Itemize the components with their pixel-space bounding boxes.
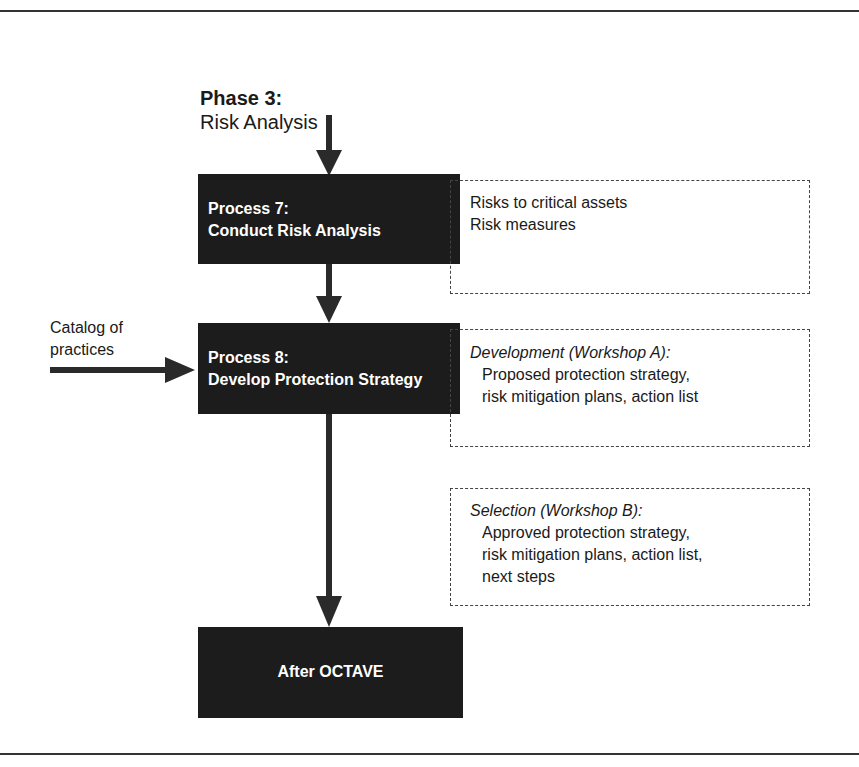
process-7-outputs: Risks to critical assets Risk measures: [470, 192, 627, 236]
process-8-number: Process 8:: [208, 347, 289, 369]
after-octave-label: After OCTAVE: [198, 661, 463, 683]
process-8-title: Develop Protection Strategy: [208, 369, 422, 391]
after-octave-box: After OCTAVE: [198, 627, 463, 718]
workshop-a-heading: Development (Workshop A):: [470, 342, 698, 364]
workshop-b-heading: Selection (Workshop B):: [470, 500, 703, 522]
output-risks: Risks to critical assets: [470, 192, 627, 214]
output-measures: Risk measures: [470, 214, 627, 236]
workshop-a-outputs: Development (Workshop A): Proposed prote…: [470, 342, 698, 408]
process-8-box: Process 8: Develop Protection Strategy: [198, 323, 460, 414]
process-7-number: Process 7:: [208, 198, 289, 220]
catalog-input-label: Catalog of practices: [50, 317, 123, 361]
process-7-box: Process 7: Conduct Risk Analysis: [198, 174, 460, 264]
process-7-title: Conduct Risk Analysis: [208, 220, 381, 242]
workshop-b-outputs: Selection (Workshop B): Approved protect…: [470, 500, 703, 588]
